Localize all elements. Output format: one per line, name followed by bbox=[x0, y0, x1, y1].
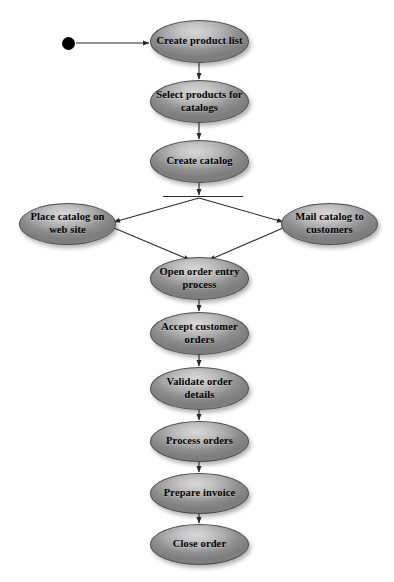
edge-fork-to-place-catalog bbox=[114, 198, 199, 222]
activity-node-select-products[interactable]: Select products for catalogs bbox=[150, 80, 249, 123]
activity-node-place-catalog-web[interactable]: Place catalog on web site bbox=[19, 203, 116, 245]
activity-node-label: Place catalog on web site bbox=[20, 211, 115, 237]
activity-node-close-order[interactable]: Close order bbox=[150, 524, 249, 565]
activity-node-label: Create catalog bbox=[151, 155, 248, 168]
activity-node-accept-customer-orders[interactable]: Accept customer orders bbox=[150, 312, 249, 355]
activity-node-label: Prepare invoice bbox=[151, 487, 248, 500]
activity-node-prepare-invoice[interactable]: Prepare invoice bbox=[150, 473, 249, 514]
activity-node-label: Select products for catalogs bbox=[151, 89, 248, 115]
start-node bbox=[62, 37, 75, 50]
activity-node-label: Close order bbox=[151, 538, 248, 551]
activity-node-label: Create product list bbox=[151, 35, 248, 48]
activity-node-process-orders[interactable]: Process orders bbox=[150, 421, 249, 462]
edge-mail-catalog-to-open-order bbox=[209, 228, 283, 260]
activity-node-validate-order-details[interactable]: Validate order details bbox=[150, 367, 249, 410]
activity-node-open-order-entry[interactable]: Open order entry process bbox=[150, 257, 249, 300]
edge-place-catalog-to-open-order bbox=[114, 228, 190, 260]
fork-bar bbox=[163, 196, 243, 198]
edge-fork-to-mail-catalog bbox=[199, 198, 283, 222]
activity-node-label: Open order entry process bbox=[151, 266, 248, 292]
activity-node-create-catalog[interactable]: Create catalog bbox=[150, 140, 249, 183]
activity-node-label: Mail catalog to customers bbox=[282, 211, 377, 237]
activity-node-label: Accept customer orders bbox=[151, 321, 248, 347]
activity-node-label: Process orders bbox=[151, 435, 248, 448]
activity-diagram-canvas: Create product listSelect products for c… bbox=[0, 0, 394, 582]
activity-node-create-product-list[interactable]: Create product list bbox=[150, 20, 249, 63]
activity-node-mail-catalog-customers[interactable]: Mail catalog to customers bbox=[281, 203, 378, 245]
activity-node-label: Validate order details bbox=[151, 376, 248, 402]
